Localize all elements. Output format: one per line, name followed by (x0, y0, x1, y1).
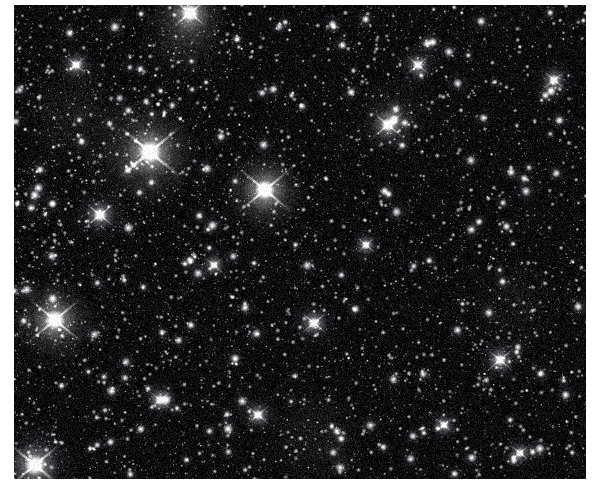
star-field-plate (14, 5, 586, 479)
star-field-canvas (14, 5, 586, 479)
page-root: Dense Galactic Star Field (0, 0, 596, 492)
